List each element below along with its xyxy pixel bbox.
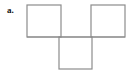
top-right-square xyxy=(91,5,125,37)
top-left-square xyxy=(27,5,61,37)
figure-container: a. xyxy=(0,0,132,73)
square-net-diagram xyxy=(0,0,132,73)
bottom-middle-square xyxy=(59,37,92,69)
